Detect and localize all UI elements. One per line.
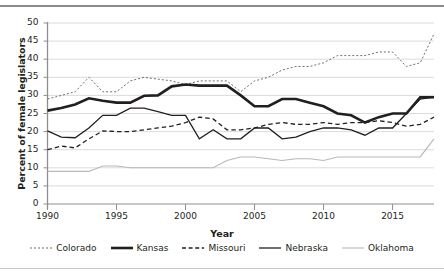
legend-item-colorado[interactable]: Colorado <box>30 243 96 253</box>
solid-line <box>259 244 281 252</box>
series-line-kansas <box>48 85 435 123</box>
x-tick-label: 2010 <box>304 211 344 221</box>
y-tick-label: 30 <box>17 89 39 99</box>
dotted-light-line <box>30 244 52 252</box>
y-tick-label: 35 <box>17 71 39 81</box>
x-tick-label: 2015 <box>373 211 413 221</box>
legend-label: Colorado <box>56 243 96 253</box>
x-tick-label: 1990 <box>28 211 68 221</box>
line-chart-plot <box>0 0 444 271</box>
legend-item-missouri[interactable]: Missouri <box>182 243 245 253</box>
series-line-missouri <box>48 117 435 150</box>
light-solid-line <box>342 244 364 252</box>
legend-item-nebraska[interactable]: Nebraska <box>259 243 327 253</box>
x-tick-label: 2000 <box>166 211 206 221</box>
dashed-line <box>182 244 204 252</box>
legend-label: Missouri <box>208 243 245 253</box>
y-tick-label: 50 <box>17 17 39 27</box>
series-line-colorado <box>48 34 435 99</box>
x-tick-label: 1995 <box>97 211 137 221</box>
y-tick-label: 40 <box>17 53 39 63</box>
series-line-oklahoma <box>48 139 435 172</box>
y-tick-label: 25 <box>17 108 39 118</box>
y-tick-label: 20 <box>17 126 39 136</box>
thick-solid-line <box>111 244 133 252</box>
chart-figure: Percent of female legislators Year 05101… <box>0 0 444 271</box>
legend-label: Nebraska <box>285 243 327 253</box>
x-tick-label: 2005 <box>235 211 275 221</box>
chart-legend: ColoradoKansasMissouriNebraskaOklahoma <box>0 243 444 253</box>
legend-item-kansas[interactable]: Kansas <box>111 243 169 253</box>
y-tick-label: 5 <box>17 180 39 190</box>
y-tick-label: 15 <box>17 144 39 154</box>
y-tick-label: 10 <box>17 162 39 172</box>
legend-item-oklahoma[interactable]: Oklahoma <box>342 243 414 253</box>
legend-label: Kansas <box>137 243 169 253</box>
legend-label: Oklahoma <box>368 243 414 253</box>
y-tick-label: 45 <box>17 35 39 45</box>
y-tick-label: 0 <box>17 198 39 208</box>
